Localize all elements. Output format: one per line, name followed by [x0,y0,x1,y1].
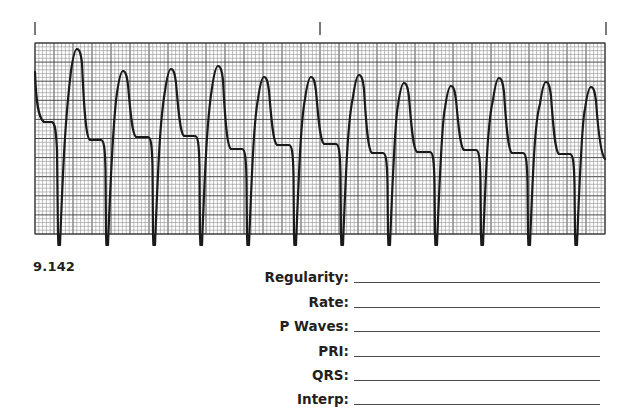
pri-answer-line[interactable] [354,356,600,357]
qrs-answer-line[interactable] [354,380,600,381]
p-waves-answer-line[interactable] [354,331,600,332]
worksheet-row-pri: PRI: [250,334,610,358]
worksheet-row-rate: Rate: [250,285,610,309]
rate-label: Rate: [250,294,354,310]
ecg-rhythm-strip [0,0,640,255]
qrs-label: QRS: [250,367,354,383]
worksheet-row-regularity: Regularity: [250,261,610,285]
regularity-answer-line[interactable] [354,282,600,283]
regularity-label: Regularity: [250,269,354,285]
pri-label: PRI: [250,343,354,359]
time-marker-ticks [35,22,606,35]
interpretation-worksheet: Regularity: Rate: P Waves: PRI: QRS: Int… [250,261,610,407]
worksheet-row-p-waves: P Waves: [250,310,610,334]
interp-answer-line[interactable] [354,404,600,405]
qrs-spike-tips [58,235,578,246]
rate-answer-line[interactable] [354,307,600,308]
figure-number: 9.142 [33,259,75,274]
ecg-grid-paper [35,43,605,234]
worksheet-row-interp: Interp: [250,383,610,407]
worksheet-row-qrs: QRS: [250,359,610,383]
interp-label: Interp: [250,391,354,407]
p-waves-label: P Waves: [250,318,354,334]
